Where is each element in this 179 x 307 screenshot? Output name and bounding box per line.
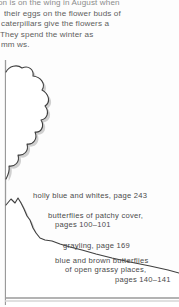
caption-grayling: grayling, page 169: [63, 241, 130, 250]
scanned-page: ion is on the wing in August when their …: [0, 0, 179, 307]
body-text-line: mm ws.: [1, 40, 179, 51]
body-text-line: their eggs on the flower buds of: [4, 9, 179, 20]
body-text-line: caterpillars give the flowers a: [1, 19, 179, 30]
caption-blue-and-brown-butterflies: blue and brown butterflies of open grass…: [55, 256, 171, 284]
body-text-block: ion is on the wing in August when their …: [0, 0, 179, 51]
body-text-line: ion is on the wing in August when: [0, 0, 179, 9]
caption-butterflies-of-patchy-cover: butterflies of patchy cover, pages 100–1…: [48, 211, 143, 230]
caption-line: blue and brown butterflies: [55, 256, 148, 265]
caption-line: grayling, page 169: [63, 241, 130, 250]
caption-line: butterflies of patchy cover,: [48, 211, 143, 220]
caption-line: of open grassy places,: [55, 265, 171, 274]
body-text-line: They spend the winter as: [0, 30, 179, 41]
caption-line: pages 100–101: [48, 220, 143, 229]
tree-canopy-silhouette: [6, 66, 51, 182]
caption-holly-blue-and-whites: holly blue and whites, page 243: [33, 191, 147, 200]
caption-line: pages 140–141: [55, 275, 171, 284]
caption-line: holly blue and whites, page 243: [33, 191, 147, 200]
